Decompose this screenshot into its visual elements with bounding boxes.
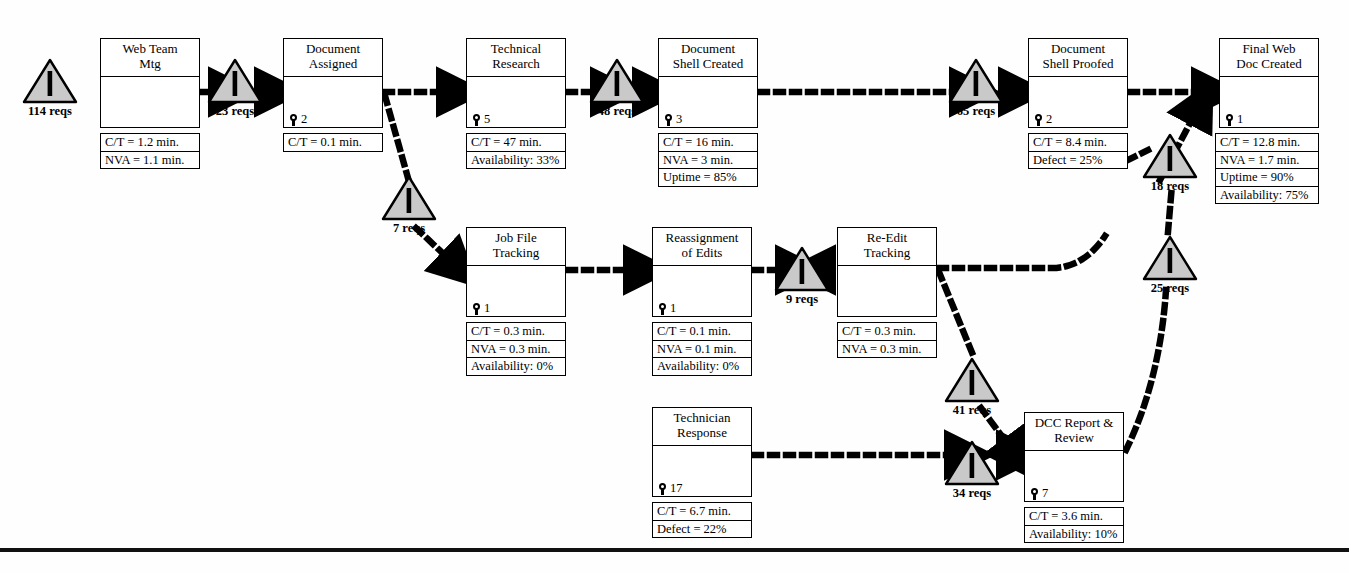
metric-row: Defect = 22%	[653, 521, 751, 538]
data-box-re-edit-tracking[interactable]: C/T = 0.3 min.NVA = 0.3 min.	[837, 322, 937, 358]
inventory-marker-inv-65[interactable]: 65 reqs	[948, 58, 1004, 104]
inventory-triangle-icon	[1142, 133, 1198, 179]
data-box-technician-response[interactable]: C/T = 6.7 min.Defect = 22%	[652, 502, 752, 538]
operator-count-value: 1	[670, 301, 676, 316]
process-box-technician-response[interactable]: Technician Response17	[652, 407, 752, 497]
operator-count: 1	[472, 301, 490, 316]
process-box-reassignment-of-edits[interactable]: Reassignment of Edits1	[652, 227, 752, 317]
inventory-marker-inv-34[interactable]: 34 reqs	[944, 440, 1000, 486]
data-box-document-assigned[interactable]: C/T = 0.1 min.	[283, 133, 383, 152]
process-box-document-assigned[interactable]: Document Assigned2	[283, 38, 383, 128]
inventory-triangle-icon	[944, 357, 1000, 403]
inventory-triangle-icon	[774, 246, 830, 292]
operator-count-value: 7	[1042, 486, 1048, 501]
process-body: 7	[1025, 451, 1123, 503]
operator-icon	[1030, 487, 1039, 500]
process-title: Final Web Doc Created	[1220, 39, 1318, 77]
flow-dcc-to-inv25	[1126, 290, 1166, 450]
process-title: DCC Report & Review	[1025, 413, 1123, 451]
inventory-label: 9 reqs	[786, 292, 818, 307]
operator-icon	[472, 302, 481, 315]
data-box-final-web-doc-created[interactable]: C/T = 12.8 min.NVA = 1.7 min.Uptime = 90…	[1215, 133, 1319, 204]
data-box-web-team-mtg[interactable]: C/T = 1.2 min.NVA = 1.1 min.	[100, 133, 200, 169]
process-title: Document Assigned	[284, 39, 382, 77]
process-body	[101, 77, 199, 129]
data-box-job-file-tracking[interactable]: C/T = 0.3 min.NVA = 0.3 min.Availability…	[466, 322, 566, 376]
operator-count: 5	[472, 112, 490, 127]
process-body: 2	[1029, 77, 1127, 129]
operator-count-value: 2	[1046, 112, 1052, 127]
process-box-document-shell-created[interactable]: Document Shell Created3	[658, 38, 758, 128]
process-box-re-edit-tracking[interactable]: Re-Edit Tracking	[837, 227, 937, 317]
metric-row: C/T = 0.3 min.	[838, 323, 936, 341]
operator-count: 17	[658, 481, 683, 496]
inventory-marker-inv-114[interactable]: 114 reqs	[22, 58, 78, 104]
operator-icon	[1225, 113, 1234, 126]
metric-row: Availability: 33%	[467, 152, 565, 169]
operator-count: 1	[658, 301, 676, 316]
inventory-label: 7 reqs	[393, 221, 425, 236]
inventory-triangle-icon	[381, 175, 437, 221]
process-body: 3	[659, 77, 757, 129]
metric-row: Defect = 25%	[1029, 152, 1127, 169]
metric-row: Availability: 10%	[1025, 526, 1123, 543]
inventory-triangle-icon	[948, 58, 1004, 104]
process-body: 5	[467, 77, 565, 129]
inventory-triangle-icon	[944, 440, 1000, 486]
inventory-marker-inv-25[interactable]: 25 reqs	[1142, 235, 1198, 281]
process-box-web-team-mtg[interactable]: Web Team Mtg	[100, 38, 200, 128]
inventory-label: 23 reqs	[216, 104, 254, 119]
data-box-document-shell-proofed[interactable]: C/T = 8.4 min.Defect = 25%	[1028, 133, 1128, 169]
data-box-technical-research[interactable]: C/T = 47 min.Availability: 33%	[466, 133, 566, 169]
inventory-label: 48 reqs	[598, 104, 636, 119]
metric-row: NVA = 3 min.	[659, 152, 757, 170]
process-body: 2	[284, 77, 382, 129]
data-box-document-shell-created[interactable]: C/T = 16 min.NVA = 3 min.Uptime = 85%	[658, 133, 758, 187]
operator-count-value: 3	[676, 112, 682, 127]
inventory-marker-inv-23[interactable]: 23 reqs	[207, 58, 263, 104]
metric-row: C/T = 16 min.	[659, 134, 757, 152]
process-title: Re-Edit Tracking	[838, 228, 936, 266]
process-box-technical-research[interactable]: Technical Research5	[466, 38, 566, 128]
process-title: Document Shell Created	[659, 39, 757, 77]
operator-count: 3	[664, 112, 682, 127]
inventory-marker-inv-41[interactable]: 41 reqs	[944, 357, 1000, 403]
inventory-label: 114 reqs	[28, 104, 72, 119]
metric-row: NVA = 0.1 min.	[653, 341, 751, 359]
operator-count: 2	[1034, 112, 1052, 127]
metric-row: C/T = 12.8 min.	[1216, 134, 1318, 152]
operator-icon	[1034, 113, 1043, 126]
process-box-dcc-report-review[interactable]: DCC Report & Review7	[1024, 412, 1124, 502]
operator-count-value: 5	[484, 112, 490, 127]
metric-row: C/T = 1.2 min.	[101, 134, 199, 152]
operator-count-value: 17	[670, 481, 683, 496]
metric-row: Availability: 0%	[467, 358, 565, 375]
process-body: 17	[653, 446, 751, 498]
metric-row: C/T = 8.4 min.	[1029, 134, 1127, 152]
operator-icon	[472, 113, 481, 126]
operator-count: 2	[289, 112, 307, 127]
metric-row: Availability: 75%	[1216, 187, 1318, 204]
process-box-document-shell-proofed[interactable]: Document Shell Proofed2	[1028, 38, 1128, 128]
data-box-dcc-report-review[interactable]: C/T = 3.6 min.Availability: 10%	[1024, 507, 1124, 543]
metric-row: Availability: 0%	[653, 358, 751, 375]
data-box-reassignment-of-edits[interactable]: C/T = 0.1 min.NVA = 0.1 min.Availability…	[652, 322, 752, 376]
operator-count-value: 1	[1237, 112, 1243, 127]
inventory-marker-inv-18[interactable]: 18 reqs	[1142, 133, 1198, 179]
process-box-job-file-tracking[interactable]: Job File Tracking1	[466, 227, 566, 317]
inventory-label: 65 reqs	[957, 104, 995, 119]
inventory-marker-inv-48[interactable]: 48 reqs	[589, 58, 645, 104]
flow-reedit-to-inv41	[939, 272, 975, 360]
metric-row: NVA = 0.3 min.	[467, 341, 565, 359]
process-body: 1	[653, 266, 751, 318]
process-title: Job File Tracking	[467, 228, 565, 266]
inventory-marker-inv-9[interactable]: 9 reqs	[774, 246, 830, 292]
inventory-marker-inv-7[interactable]: 7 reqs	[381, 175, 437, 221]
inventory-label: 41 reqs	[953, 403, 991, 418]
process-title: Document Shell Proofed	[1029, 39, 1127, 77]
operator-count-value: 1	[484, 301, 490, 316]
process-title: Technician Response	[653, 408, 751, 446]
process-box-final-web-doc-created[interactable]: Final Web Doc Created1	[1219, 38, 1319, 128]
process-body: 1	[1220, 77, 1318, 129]
process-body	[838, 266, 936, 318]
